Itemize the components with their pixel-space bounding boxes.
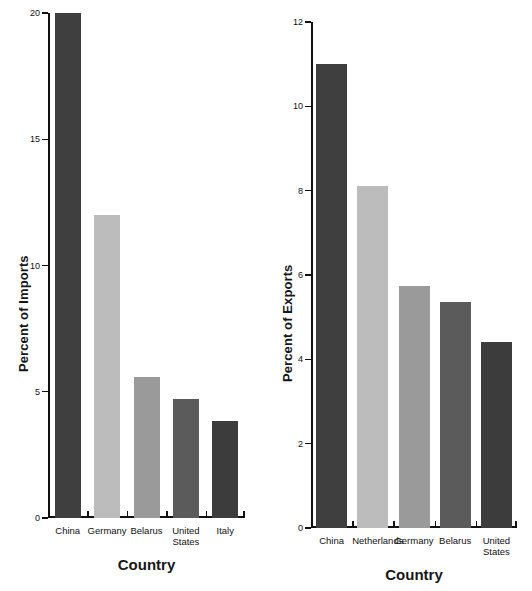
x-axis-tick-exports-end [515, 521, 517, 528]
chart-panel-imports: Percent of Imports 05101520ChinaGermanyB… [0, 0, 266, 591]
x-axis-tick-label-imports-italy: Italy [206, 525, 245, 536]
y-axis-tick-label-exports-2: 2 [298, 439, 303, 448]
x-axis-tick-exports-4 [476, 521, 478, 528]
x-axis-tick-label-imports-united-states: United States [166, 525, 205, 547]
y-axis-tick-label-exports-0: 0 [298, 524, 303, 533]
y-axis-tick-label-imports-10: 10 [30, 261, 40, 270]
x-axis-tick-label-exports-china: China [311, 535, 352, 546]
y-axis-tick-exports-8 [305, 190, 311, 191]
chart-panel-exports: Percent of Exports 024681012ChinaNetherl… [266, 0, 532, 591]
x-axis-tick-imports-4 [206, 511, 208, 518]
x-axis-tick-exports-0 [311, 521, 313, 528]
x-axis-tick-label-exports-netherlands: Netherlands [352, 535, 393, 546]
x-axis-tick-imports-0 [48, 511, 50, 518]
x-axis-tick-label-imports-belarus: Belarus [127, 525, 166, 536]
y-axis-tick-label-exports-6: 6 [298, 271, 303, 280]
y-axis-tick-label-exports-8: 8 [298, 186, 303, 195]
y-axis-tick-label-exports-10: 10 [293, 102, 303, 111]
x-axis-tick-exports-1 [352, 521, 354, 528]
x-axis-tick-label-exports-united-states: United States [476, 535, 517, 557]
y-axis-tick-imports-5 [42, 391, 48, 392]
bar-imports-belarus[interactable] [134, 377, 160, 518]
y-axis-tick-exports-10 [305, 106, 311, 107]
bar-imports-china[interactable] [55, 13, 81, 518]
x-axis-tick-exports-2 [393, 521, 395, 528]
y-axis-label-exports: Percent of Exports [280, 265, 295, 382]
y-axis-line-imports [48, 13, 50, 518]
y-axis-tick-label-imports-5: 5 [35, 387, 40, 396]
y-axis-line-exports [311, 22, 313, 528]
y-axis-tick-label-imports-0: 0 [35, 514, 40, 523]
bar-imports-germany[interactable] [94, 215, 120, 518]
y-axis-tick-exports-12 [305, 21, 311, 22]
x-axis-label-imports: Country [48, 556, 245, 573]
x-axis-tick-imports-2 [127, 511, 129, 518]
y-axis-tick-exports-6 [305, 274, 311, 275]
plot-area-exports: 024681012ChinaNetherlandsGermanyBelarusU… [311, 22, 517, 528]
y-axis-label-imports: Percent of Imports [16, 255, 31, 372]
y-axis-tick-label-exports-12: 12 [293, 18, 303, 27]
y-axis-tick-imports-10 [42, 265, 48, 266]
bar-exports-united-states[interactable] [481, 342, 512, 528]
y-axis-tick-label-exports-4: 4 [298, 355, 303, 364]
y-axis-tick-exports-2 [305, 443, 311, 444]
bar-exports-china[interactable] [316, 64, 347, 528]
bar-exports-belarus[interactable] [440, 302, 471, 528]
x-axis-label-exports: Country [311, 566, 517, 583]
y-axis-tick-exports-4 [305, 359, 311, 360]
x-axis-tick-label-imports-china: China [48, 525, 87, 536]
y-axis-tick-label-imports-15: 15 [30, 135, 40, 144]
x-axis-tick-label-exports-belarus: Belarus [435, 535, 476, 546]
plot-area-imports: 05101520ChinaGermanyBelarusUnited States… [48, 13, 245, 518]
bar-exports-germany[interactable] [399, 286, 430, 528]
y-axis-tick-imports-20 [42, 12, 48, 13]
x-axis-tick-imports-end [243, 511, 245, 518]
bar-exports-netherlands[interactable] [357, 186, 388, 528]
x-axis-tick-label-imports-germany: Germany [87, 525, 126, 536]
figure-two-bar-charts: Percent of Imports 05101520ChinaGermanyB… [0, 0, 532, 591]
x-axis-tick-imports-1 [87, 511, 89, 518]
y-axis-tick-imports-15 [42, 139, 48, 140]
y-axis-tick-label-imports-20: 20 [30, 9, 40, 18]
x-axis-tick-label-exports-germany: Germany [393, 535, 434, 546]
x-axis-tick-imports-3 [166, 511, 168, 518]
x-axis-tick-exports-3 [435, 521, 437, 528]
bar-imports-united-states[interactable] [173, 399, 199, 518]
bar-imports-italy[interactable] [212, 421, 238, 518]
